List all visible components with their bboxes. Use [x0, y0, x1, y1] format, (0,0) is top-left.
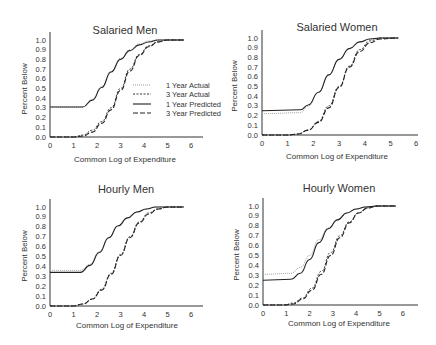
y-tick-label: 0.3	[249, 271, 259, 280]
x-tick-label: 2	[311, 139, 315, 148]
x-axis-label: Common Log of Expenditure	[286, 152, 388, 161]
x-tick-label: 2	[95, 310, 99, 319]
legend-label: 1 Year Predicted	[166, 100, 221, 109]
y-tick-label: 0.1	[248, 121, 258, 130]
x-axis-label: Common Log of Expenditure	[76, 321, 178, 330]
y-tick-label: 0.1	[249, 291, 259, 300]
y-tick-label: 0.5	[36, 252, 46, 261]
y-tick-label: 0.2	[36, 282, 46, 291]
y-tick-label: 0.5	[36, 84, 46, 93]
y-axis-label: Percent Below	[232, 229, 241, 281]
axes: 01234560.00.10.20.30.40.50.60.70.80.91.0	[36, 199, 203, 319]
y-tick-label: 0.4	[36, 94, 46, 103]
y-tick-label: 0.6	[248, 72, 258, 81]
curve-3-year-predicted	[263, 206, 396, 305]
y-tick-label: 0.8	[36, 55, 46, 64]
panel-salaried-women: Salaried Women 01234560.00.10.20.30.40.5…	[230, 21, 418, 161]
curve-3-year-actual	[50, 40, 184, 137]
legend: 1 Year Actual 3 Year Actual 1 Year Predi…	[133, 81, 221, 118]
curves	[50, 40, 184, 137]
y-tick-label: 0.1	[36, 123, 46, 132]
y-tick-label: 0.1	[36, 292, 46, 301]
y-tick-label: 0.9	[249, 211, 259, 220]
legend-item-3-year-actual: 3 Year Actual	[133, 90, 210, 99]
y-tick-label: 0.4	[248, 92, 258, 101]
x-tick-label: 3	[331, 309, 335, 318]
panel-title: Hourly Men	[98, 183, 154, 195]
x-tick-label: 0	[260, 139, 264, 148]
y-tick-label: 0.6	[249, 241, 259, 250]
curve-1-year-actual	[263, 206, 396, 274]
curve-1-year-predicted	[263, 206, 396, 280]
legend-label: 1 Year Actual	[166, 81, 210, 90]
x-tick-label: 5	[165, 141, 169, 150]
y-tick-label: 0.7	[248, 63, 258, 72]
x-tick-label: 1	[286, 139, 290, 148]
x-tick-label: 5	[388, 139, 392, 148]
x-axis-label: Common Log of Expenditure	[74, 155, 176, 164]
y-tick-label: 0.6	[36, 74, 46, 83]
x-tick-label: 3	[118, 141, 122, 150]
y-tick-label: 0.4	[249, 261, 259, 270]
curve-3-year-predicted	[262, 38, 398, 135]
x-tick-label: 3	[118, 310, 122, 319]
y-tick-label: 0.8	[248, 53, 258, 62]
x-tick-label: 1	[284, 309, 288, 318]
legend-item-1-year-predicted: 1 Year Predicted	[133, 100, 221, 109]
y-tick-label: 1.0	[36, 203, 46, 212]
figure-four-panel-cdf: Salaried Men 01234560.00.10.20.30.40.50.…	[0, 0, 436, 345]
x-tick-label: 1	[71, 310, 75, 319]
curve-1-year-predicted	[262, 38, 398, 111]
x-tick-label: 6	[401, 309, 405, 318]
y-tick-label: 0.2	[249, 281, 259, 290]
x-tick-label: 6	[189, 310, 193, 319]
x-tick-label: 2	[95, 141, 99, 150]
panel-title: Salaried Women	[296, 21, 377, 33]
x-axis-label: Common Log of Expenditure	[288, 319, 390, 328]
x-tick-label: 3	[337, 139, 341, 148]
x-tick-label: 4	[354, 309, 358, 318]
curves	[262, 38, 398, 135]
curve-3-year-actual	[50, 207, 184, 306]
y-tick-label: 0.2	[36, 113, 46, 122]
y-tick-label: 0.5	[249, 251, 259, 260]
x-tick-label: 5	[377, 309, 381, 318]
y-tick-label: 0.3	[36, 272, 46, 281]
y-tick-label: 0.7	[36, 65, 46, 74]
y-axis-label: Percent Below	[20, 230, 29, 282]
y-tick-label: 0.3	[248, 101, 258, 110]
y-tick-label: 0.0	[249, 301, 259, 310]
y-tick-label: 1.0	[249, 202, 259, 211]
y-tick-label: 0.9	[36, 212, 46, 221]
curve-3-year-actual	[262, 38, 398, 135]
legend-label: 3 Year Predicted	[166, 109, 221, 118]
axes: 01234560.00.10.20.30.40.50.60.70.80.91.0	[249, 198, 418, 318]
y-tick-label: 0.9	[248, 43, 258, 52]
y-tick-label: 0.0	[36, 133, 46, 142]
y-tick-label: 0.2	[248, 111, 258, 120]
x-tick-label: 2	[308, 309, 312, 318]
panel-title: Salaried Men	[93, 24, 158, 36]
x-tick-label: 5	[165, 310, 169, 319]
y-tick-label: 0.7	[249, 231, 259, 240]
legend-item-1-year-actual: 1 Year Actual	[133, 81, 210, 90]
x-tick-label: 6	[189, 141, 193, 150]
y-axis-label: Percent Below	[230, 60, 239, 112]
y-tick-label: 0.0	[248, 131, 258, 140]
y-axis-label: Percent Below	[20, 63, 29, 115]
x-tick-label: 6	[414, 139, 418, 148]
x-tick-label: 0	[261, 309, 265, 318]
curve-1-year-actual	[262, 38, 398, 114]
x-tick-label: 1	[71, 141, 75, 150]
panel-hourly-men: Hourly Men 01234560.00.10.20.30.40.50.60…	[20, 183, 203, 330]
y-tick-label: 1.0	[36, 36, 46, 45]
y-tick-label: 1.0	[248, 34, 258, 43]
y-tick-label: 0.8	[249, 221, 259, 230]
y-tick-label: 0.5	[248, 82, 258, 91]
x-tick-label: 4	[142, 310, 146, 319]
x-tick-label: 4	[142, 141, 146, 150]
panel-title: Hourly Women	[303, 182, 376, 194]
curves	[263, 206, 396, 305]
curves	[50, 207, 184, 306]
curve-1-year-predicted	[50, 207, 184, 272]
